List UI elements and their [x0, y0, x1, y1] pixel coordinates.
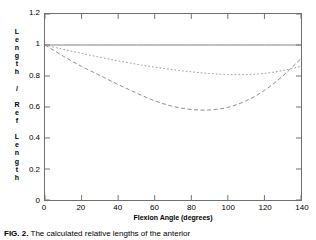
y-axis-title-char: t	[10, 60, 24, 68]
y-axis-title-char: h	[10, 174, 24, 182]
data-series-group	[45, 45, 301, 110]
chart-area: 00.20.40.60.811.2 020406080100120140 Len…	[0, 0, 316, 226]
x-tick-label: 60	[140, 204, 170, 212]
y-axis-title-char	[10, 93, 24, 101]
y-axis-title-char: g	[10, 52, 24, 60]
series-line-dotted-curve	[45, 45, 301, 75]
x-tick-label: 100	[213, 204, 243, 212]
plot-frame	[44, 13, 302, 201]
y-axis-title-char	[10, 125, 24, 133]
x-tick-label: 140	[287, 204, 316, 212]
x-tick-label: 20	[66, 204, 96, 212]
figure-caption: FIG. 2. The calculated relative lengths …	[4, 229, 316, 239]
y-axis-title: Length / Ref Length	[10, 28, 24, 182]
y-axis-title-char: f	[10, 117, 24, 125]
caption-label: FIG. 2.	[4, 229, 28, 238]
y-axis-title-char: e	[10, 36, 24, 44]
y-axis-title-char: t	[10, 166, 24, 174]
y-axis-title-char: h	[10, 68, 24, 76]
figure-container: 00.20.40.60.811.2 020406080100120140 Len…	[0, 0, 316, 240]
y-axis-title-char	[10, 77, 24, 85]
caption-body: The calculated relative lengths of the a…	[28, 229, 190, 238]
y-axis-title-char: L	[10, 28, 24, 36]
y-axis-title-char: g	[10, 158, 24, 166]
x-tick-label: 80	[176, 204, 206, 212]
y-axis-title-char: /	[10, 85, 24, 93]
x-axis-title: Flexion Angle (degrees)	[44, 214, 302, 222]
y-axis-title-char: n	[10, 44, 24, 52]
y-axis-title-char: n	[10, 149, 24, 157]
x-tick-label: 120	[250, 204, 280, 212]
y-axis-title-char: e	[10, 109, 24, 117]
tick-marks	[45, 14, 301, 200]
y-axis-title-char: R	[10, 101, 24, 109]
x-tick-label: 40	[103, 204, 133, 212]
plot-canvas	[45, 14, 301, 200]
y-axis-title-char: e	[10, 141, 24, 149]
y-axis-title-char: L	[10, 133, 24, 141]
series-line-dashed-curve	[45, 45, 301, 110]
x-tick-label: 0	[29, 204, 59, 212]
